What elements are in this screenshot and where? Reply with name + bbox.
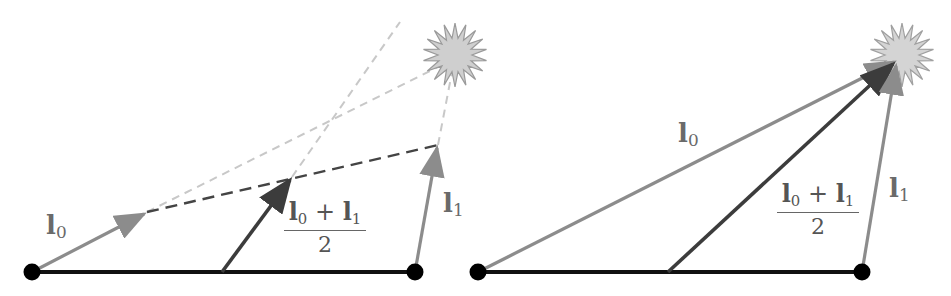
label-l1-sub: 1 <box>453 200 464 220</box>
endpoint-dot-left <box>470 264 487 281</box>
right-panel <box>470 23 934 281</box>
light-ray-dashed-avg <box>292 22 400 177</box>
num-l0-sub: 0 <box>298 210 307 228</box>
label-l1: l1 <box>889 175 910 204</box>
num-plus: + <box>315 198 335 226</box>
label-l0-base: l <box>678 118 688 148</box>
label-l1-base: l <box>443 188 453 218</box>
num-l1-sub: 1 <box>845 192 854 210</box>
fraction-numerator: l0 + l1 <box>777 182 859 213</box>
num-l1-sub: 1 <box>352 210 361 228</box>
label-l1: l1 <box>443 190 464 219</box>
num-l0-base: l <box>782 179 791 208</box>
endpoint-dot-left <box>24 264 41 281</box>
label-l0-sub: 0 <box>688 130 699 150</box>
vector-l0 <box>478 62 894 272</box>
left-panel <box>24 22 487 281</box>
num-plus: + <box>808 180 828 208</box>
vector-average <box>222 180 290 272</box>
vector-l1 <box>862 66 896 272</box>
fraction-denominator: 2 <box>284 231 366 256</box>
light-ray-dashed-0 <box>147 62 448 212</box>
fraction-numerator: l0 + l1 <box>284 200 366 231</box>
num-l1-base: l <box>343 197 352 226</box>
num-l1-base: l <box>836 179 845 208</box>
vector-average <box>668 64 893 272</box>
label-average-fraction: l0 + l1 2 <box>777 182 859 238</box>
diagram-canvas <box>0 0 951 296</box>
num-l0-sub: 0 <box>791 192 800 210</box>
num-l0-base: l <box>289 197 298 226</box>
light-source-icon <box>424 23 487 87</box>
label-l0-base: l <box>46 210 56 240</box>
vector-l1 <box>415 148 437 272</box>
label-l1-base: l <box>889 173 899 203</box>
label-l0-sub: 0 <box>56 222 67 242</box>
label-l0: l0 <box>46 212 67 241</box>
endpoint-dot-right <box>854 264 871 281</box>
endpoint-dot-right <box>407 264 424 281</box>
label-l1-sub: 1 <box>899 185 910 205</box>
fraction-denominator: 2 <box>777 213 859 238</box>
label-average-fraction: l0 + l1 2 <box>284 200 366 256</box>
label-l0: l0 <box>678 120 699 149</box>
